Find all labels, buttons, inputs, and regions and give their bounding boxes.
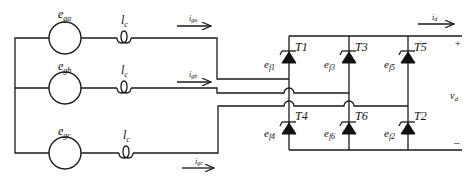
thyristor-T1: T1 ef1 xyxy=(264,40,308,72)
svg-text:T3: T3 xyxy=(355,40,368,54)
svg-text:T2: T2 xyxy=(414,109,427,123)
thyristor-T3: T3 ef3 xyxy=(324,40,368,72)
svg-text:lc: lc xyxy=(121,63,128,79)
svg-text:egb: egb xyxy=(58,59,71,75)
inductor-c xyxy=(119,146,133,158)
thyristor-T5: T5 ef5 xyxy=(384,40,427,72)
svg-text:ega: ega xyxy=(58,7,71,23)
phase-b: egb lc igb xyxy=(49,59,349,104)
neutral-bus xyxy=(15,38,49,153)
source-gb xyxy=(49,72,81,104)
source-gc xyxy=(49,137,81,169)
svg-text:T1: T1 xyxy=(295,40,308,54)
source-ga xyxy=(49,22,81,54)
inductor-a xyxy=(117,31,131,43)
svg-text:ef6: ef6 xyxy=(324,127,335,141)
plus-terminal: + xyxy=(454,37,461,49)
svg-text:egc: egc xyxy=(58,124,71,140)
svg-text:T5: T5 xyxy=(414,40,427,54)
svg-text:ef1: ef1 xyxy=(264,58,275,72)
svg-text:lc: lc xyxy=(121,13,128,29)
svg-text:ef4: ef4 xyxy=(264,127,275,141)
thyristor-T6: T6 ef6 xyxy=(324,109,368,141)
rectifier-circuit-diagram: ega lc iga egb lc igb egc lc igc xyxy=(0,0,473,176)
svg-text:ef5: ef5 xyxy=(384,58,395,72)
svg-text:T6: T6 xyxy=(355,109,368,123)
svg-text:T4: T4 xyxy=(295,109,308,123)
thyristor-T4: T4 ef4 xyxy=(264,109,308,141)
svg-text:iga: iga xyxy=(189,14,197,23)
svg-text:igb: igb xyxy=(189,70,197,79)
svg-text:id: id xyxy=(432,13,438,22)
svg-text:ef2: ef2 xyxy=(384,127,395,141)
thyristor-T2: T2 ef2 xyxy=(384,109,427,141)
minus-terminal: – xyxy=(453,136,460,148)
svg-text:igc: igc xyxy=(195,157,203,166)
phase-a: ega lc iga xyxy=(49,7,289,79)
svg-text:ef3: ef3 xyxy=(324,58,335,72)
svg-text:lc: lc xyxy=(123,128,130,144)
inductor-b xyxy=(117,81,131,93)
output-voltage: vd xyxy=(450,90,458,103)
output-current: id xyxy=(418,13,454,24)
